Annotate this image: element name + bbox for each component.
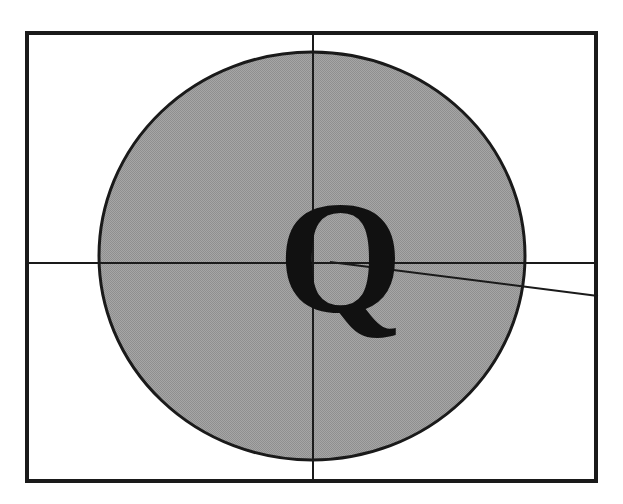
letter-q-label: Q [278, 178, 403, 339]
figure-canvas: Q [0, 0, 623, 504]
